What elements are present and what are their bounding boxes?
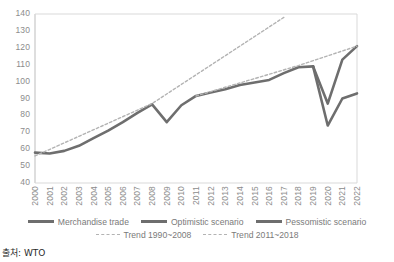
legend-row-primary: Merchandise tradeOptimistic scenarioPess… (0, 215, 394, 228)
x-axis-tick-label: 2007 (132, 186, 142, 206)
y-axis-tick-label: 80 (4, 110, 30, 119)
legend-item[interactable]: Pessomistic scenario (256, 217, 367, 227)
y-axis-tick-label: 130 (4, 26, 30, 35)
chart-plot-area: 405060708090100110120130140 200020012002… (0, 0, 394, 205)
y-axis-tick-label: 120 (4, 43, 30, 52)
legend-swatch-solid-icon (256, 220, 282, 223)
y-axis-tick-label: 110 (4, 60, 30, 69)
y-axis-tick-label: 60 (4, 144, 30, 153)
legend-swatch-solid-icon (141, 220, 167, 223)
legend-label: Pessomistic scenario (286, 217, 367, 227)
x-axis-tick-label: 2011 (191, 186, 201, 205)
legend-label: Optimistic scenario (171, 217, 244, 227)
legend-swatch-dashed-icon (96, 234, 120, 235)
y-axis-tick-label: 70 (4, 127, 30, 136)
x-axis-tick-label: 2008 (147, 186, 157, 206)
x-axis-tick-label: 2005 (103, 186, 113, 206)
source-note: 출처: WTO (2, 246, 45, 259)
x-axis-tick-label: 2006 (118, 186, 128, 206)
legend-item[interactable]: Trend 2011~2018 (203, 230, 298, 240)
legend-swatch-dashed-icon (203, 234, 227, 235)
x-axis-tick-label: 2020 (323, 186, 333, 206)
x-axis-tick-label: 2016 (264, 186, 274, 206)
x-axis-tick-label: 2009 (162, 186, 172, 206)
legend-item[interactable]: Trend 1990~2008 (96, 230, 192, 240)
chart-svg (0, 0, 394, 205)
y-axis-tick-label: 100 (4, 77, 30, 86)
x-axis-tick-label: 2001 (45, 186, 55, 206)
legend-item[interactable]: Optimistic scenario (141, 217, 244, 227)
x-axis-tick-label: 2000 (30, 186, 40, 206)
legend-label: Trend 2011~2018 (231, 230, 298, 240)
legend-label: Merchandise trade (58, 217, 129, 227)
x-axis-tick-label: 2010 (176, 186, 186, 206)
chart-legend: Merchandise tradeOptimistic scenarioPess… (0, 215, 394, 245)
legend-item[interactable]: Merchandise trade (28, 217, 129, 227)
y-axis-tick-label: 140 (4, 9, 30, 18)
x-axis-tick-label: 2015 (250, 186, 260, 206)
x-axis-tick-label: 2017 (279, 186, 289, 206)
y-axis-tick-label: 50 (4, 161, 30, 170)
x-axis-tick-label: 2004 (89, 186, 99, 206)
y-axis-tick-label: 40 (4, 178, 30, 187)
x-axis-tick-label: 2018 (293, 186, 303, 206)
x-axis-tick-label: 2014 (235, 186, 245, 206)
x-axis-tick-label: 2002 (59, 186, 69, 206)
series-line-0 (35, 66, 313, 153)
x-axis-tick-label: 2019 (308, 186, 318, 206)
x-axis-tick-label: 2003 (74, 186, 84, 206)
x-axis-tick-label: 2021 (337, 186, 347, 206)
legend-row-trends: Trend 1990~2008Trend 2011~2018 (0, 228, 394, 241)
y-axis-tick-label: 90 (4, 94, 30, 103)
x-axis-tick-label: 2012 (206, 186, 216, 206)
series-line-3 (35, 17, 284, 156)
x-axis-tick-label: 2013 (220, 186, 230, 206)
series-line-2 (313, 66, 357, 125)
legend-swatch-solid-icon (28, 220, 54, 223)
legend-label: Trend 1990~2008 (124, 230, 192, 240)
x-axis-tick-label: 2022 (352, 186, 362, 206)
chart-figure: 405060708090100110120130140 200020012002… (0, 0, 394, 262)
